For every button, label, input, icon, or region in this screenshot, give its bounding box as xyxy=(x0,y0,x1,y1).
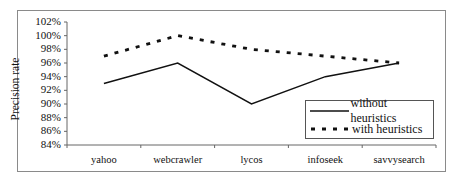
series-line-with-heuristics xyxy=(104,36,399,63)
legend: without heuristics with heuristics xyxy=(305,100,434,139)
legend-item-with-heuristics: with heuristics xyxy=(310,121,422,137)
dashed-line-swatch-icon xyxy=(310,125,350,133)
plot-area xyxy=(0,0,461,182)
legend-item-without-heuristics: without heuristics xyxy=(310,103,433,119)
legend-label-with-heuristics: with heuristics xyxy=(352,122,422,137)
solid-line-swatch-icon xyxy=(310,107,349,115)
